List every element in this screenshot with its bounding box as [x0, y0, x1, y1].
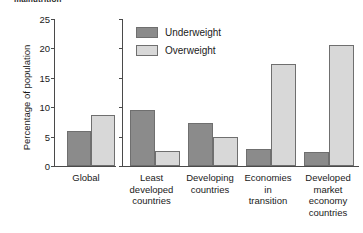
group-label-developed-market-line3: economy — [297, 195, 359, 207]
group-label-developing-line1: Developing — [181, 172, 239, 184]
group-label-economies-transition-line3: transition — [239, 195, 297, 207]
chart-legend: Underweight Overweight — [136, 25, 221, 61]
group-label-economies-transition-line2: in — [239, 184, 297, 196]
legend-label-overweight: Overweight — [165, 45, 216, 56]
y-tick-label-0: 0 — [32, 162, 50, 171]
bar-global-underweight[interactable] — [67, 131, 91, 167]
y-tick-label-5: 5 — [32, 133, 50, 142]
y-tick-label-20: 20 — [32, 44, 50, 53]
bar-economies-transition-overweight[interactable] — [271, 64, 296, 166]
group-label-developing-line2: countries — [181, 184, 239, 196]
bar-developing-overweight[interactable] — [213, 137, 238, 166]
group-label-least-developed-line3: countries — [122, 195, 181, 207]
legend-item-overweight[interactable]: Overweight — [136, 43, 221, 58]
y-tick-label-15: 15 — [32, 74, 50, 83]
bar-developed-market-underweight[interactable] — [304, 152, 329, 166]
group-label-least-developed: Least developed countries — [122, 172, 181, 207]
group-label-least-developed-line2: developed — [122, 184, 181, 196]
legend-item-underweight[interactable]: Underweight — [136, 25, 221, 40]
group-label-economies-transition: Economies in transition — [239, 172, 297, 207]
group-label-developed-market-line4: countries — [297, 207, 359, 219]
y-tick-label-10: 10 — [32, 103, 50, 112]
group-label-least-developed-line1: Least — [122, 172, 181, 184]
group-label-economies-transition-line1: Economies — [239, 172, 297, 184]
group-label-developed-market-line1: Developed — [297, 172, 359, 184]
group-label-global: Global — [55, 172, 117, 184]
group-label-developed-market-line2: market — [297, 184, 359, 196]
legend-swatch-underweight-icon — [136, 27, 158, 38]
left-panel-x-axis-spine — [54, 166, 116, 167]
bar-developing-underweight[interactable] — [188, 123, 213, 166]
legend-label-underweight: Underweight — [165, 27, 221, 38]
group-label-developed-market: Developed market economy countries — [297, 172, 359, 218]
bar-developed-market-overweight[interactable] — [329, 45, 354, 166]
bar-least-developed-underweight[interactable] — [130, 110, 155, 166]
global-panel — [54, 18, 116, 166]
group-label-developing: Developing countries — [181, 172, 239, 195]
legend-swatch-overweight-icon — [136, 45, 158, 56]
bar-global-overweight[interactable] — [91, 115, 115, 166]
group-label-global-line1: Global — [55, 172, 117, 184]
y-tick-label-25: 25 — [32, 15, 50, 24]
right-panel-x-axis-spine — [122, 166, 359, 167]
bar-least-developed-overweight[interactable] — [155, 151, 180, 166]
bar-chart-figure: Percentage of population 25 20 15 10 5 0 — [0, 0, 363, 233]
y-axis-title: Percentage of population — [21, 23, 32, 173]
bar-economies-transition-underweight[interactable] — [246, 149, 271, 166]
